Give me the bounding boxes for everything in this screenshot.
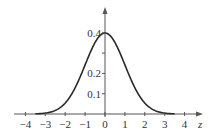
y-tick-label: 0.2 <box>87 67 101 79</box>
x-axis-label: z <box>197 118 203 130</box>
x-tick-label: 3 <box>162 118 168 130</box>
x-axis-ticks: −4−3−2−101234 <box>20 112 188 130</box>
x-axis-arrow-icon <box>196 112 203 117</box>
y-axis-arrow-icon <box>103 7 108 14</box>
y-tick-label: 0.1 <box>87 88 101 100</box>
x-tick-label: −1 <box>79 118 91 130</box>
axes <box>14 7 203 117</box>
x-tick-label: −4 <box>20 118 32 130</box>
x-tick-label: 2 <box>142 118 148 130</box>
x-tick-label: −2 <box>59 118 71 130</box>
y-axis-ticks: 0.10.20.4 <box>87 27 105 100</box>
normal-distribution-chart: −4−3−2−101234 0.10.20.4 z <box>0 0 212 134</box>
x-tick-label: 4 <box>182 118 188 130</box>
x-tick-label: 1 <box>122 118 128 130</box>
x-tick-label: 0 <box>102 118 108 130</box>
y-tick-label: 0.4 <box>87 27 101 39</box>
x-tick-label: −3 <box>39 118 51 130</box>
